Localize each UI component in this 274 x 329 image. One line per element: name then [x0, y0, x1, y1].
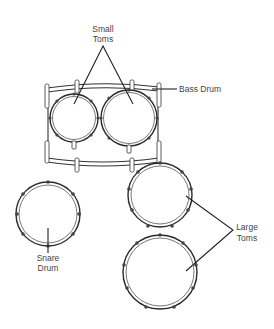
- label-large-toms-line1: Large: [236, 222, 258, 232]
- drum-kit-diagram: Small Toms Bass Drum Snare Drum Large To…: [0, 0, 274, 329]
- small-tom-2: [99, 88, 158, 153]
- small-tom-1: [48, 92, 99, 149]
- label-small-toms-line1: Small: [92, 24, 113, 34]
- large-tom-1: [127, 161, 193, 228]
- label-snare-drum-line1: Snare: [37, 253, 60, 263]
- label-large-toms-line2: Toms: [237, 233, 257, 243]
- label-snare-drum-line2: Drum: [38, 263, 59, 273]
- label-bass-drum: Bass Drum: [179, 84, 221, 94]
- label-small-toms-line2: Toms: [93, 34, 113, 44]
